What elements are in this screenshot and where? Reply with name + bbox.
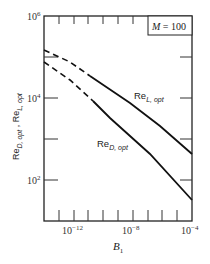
x-tick-1e-8: 10−8 [122, 224, 140, 236]
svg-text:M = 100: M = 100 [151, 21, 186, 32]
x-axis-title: B1 [113, 240, 124, 255]
annotation-box: M = 100 [148, 16, 192, 35]
y-axis-title: ReD, opt , ReL, opt [11, 92, 24, 160]
bottom-ticks [59, 210, 177, 221]
plot-frame [44, 16, 192, 221]
left-ticks [44, 57, 58, 180]
top-ticks [59, 16, 133, 24]
x-tick-1e-4: 10−4 [181, 224, 199, 236]
label-re-d-opt: ReD, opt [97, 138, 129, 152]
series-re-l-opt [44, 50, 192, 154]
chart: M = 100 ReL, opt ReD, opt 106 104 102 10… [0, 0, 210, 264]
y-tick-1e2: 102 [27, 174, 41, 186]
y-tick-1e4: 104 [27, 92, 41, 104]
series-re-d-opt [44, 62, 192, 200]
right-ticks [180, 57, 192, 180]
y-tick-1e6: 106 [27, 10, 41, 22]
x-tick-1e-12: 10−12 [62, 224, 83, 236]
label-re-l-opt: ReL, opt [134, 90, 165, 104]
